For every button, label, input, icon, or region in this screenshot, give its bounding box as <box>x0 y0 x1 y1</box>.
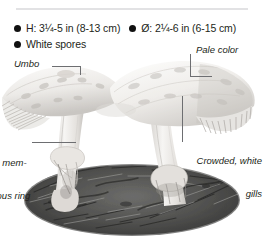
umbo-leader-vertical <box>80 66 81 75</box>
bullet-icon <box>129 25 136 32</box>
callout-membranous-ring: rge mem- anous ring <box>0 135 70 223</box>
mushroom-identification-panel: H: 3¼-5 in (8-13 cm) Ø: 2¼-6 in (6-15 cm… <box>0 0 264 247</box>
callout-gills-line2: gills <box>186 188 262 199</box>
fact-diameter: Ø: 2¼-6 in (6-15 cm) <box>141 22 236 34</box>
callout-gills: Crowded, white gills <box>186 133 262 221</box>
callout-membranous-ring-line1: rge mem- <box>0 157 70 168</box>
bullet-icon <box>14 41 21 48</box>
callout-umbo: Umbo <box>14 58 39 69</box>
fact-row-measurements: H: 3¼-5 in (8-13 cm) Ø: 2¼-6 in (6-15 cm… <box>14 20 264 36</box>
background-mushroom-cap <box>96 103 136 117</box>
callout-membranous-ring-line2: anous ring <box>0 190 70 201</box>
umbo-knob <box>57 70 75 78</box>
gills-leader-vertical <box>182 96 183 142</box>
callout-pale-color: Pale color <box>196 44 238 55</box>
bullet-icon <box>14 25 21 32</box>
umbo-leader-horizontal <box>52 66 80 67</box>
top-divider-rule <box>16 8 248 10</box>
pale-color-leader-horizontal <box>190 76 212 77</box>
callout-gills-line1: Crowded, white <box>186 155 262 166</box>
pale-color-leader-vertical <box>190 54 191 76</box>
fact-spores: White spores <box>26 38 86 50</box>
fact-height: H: 3¼-5 in (8-13 cm) <box>26 22 120 34</box>
